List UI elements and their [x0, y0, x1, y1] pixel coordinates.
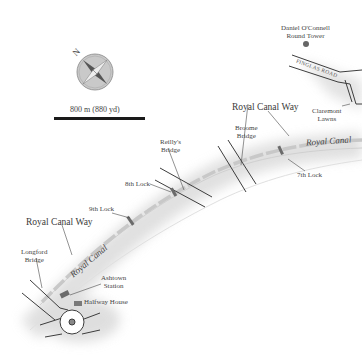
broome-bridge-label: Broome Bridge [235, 124, 258, 140]
claremont-lawns-label: Claremont Lawns [312, 107, 342, 123]
scale-bar [54, 117, 145, 120]
scale-bar-label: 800 m (880 yd) [70, 106, 120, 114]
royal-canal-way-label-top: Royal Canal Way [232, 102, 299, 113]
royal-canal-way-label-left: Royal Canal Way [26, 217, 93, 228]
longford-bridge-label: Longford Bridge [21, 248, 47, 264]
compass-rose-icon [77, 54, 113, 90]
lock-8-label: 8th Lock [125, 180, 150, 188]
canal-shadow [30, 60, 362, 342]
round-tower-marker[interactable] [303, 41, 309, 47]
halfway-house-block [74, 301, 82, 306]
halfway-house-label: Halfway House [84, 298, 128, 306]
royal-canal-label-top: Royal Canal [306, 135, 352, 146]
map-canvas: N 800 m (880 yd) Daniel O'Connell Round … [0, 0, 362, 356]
ashtown-station-label: Ashtown Station [101, 274, 126, 290]
lock-7-label: 7th Lock [297, 171, 322, 179]
lock-9-label: 9th Lock [89, 205, 114, 213]
round-tower-label: Daniel O'Connell Round Tower [281, 24, 330, 40]
reillys-bridge-label: Reilly's Bridge [160, 138, 181, 154]
